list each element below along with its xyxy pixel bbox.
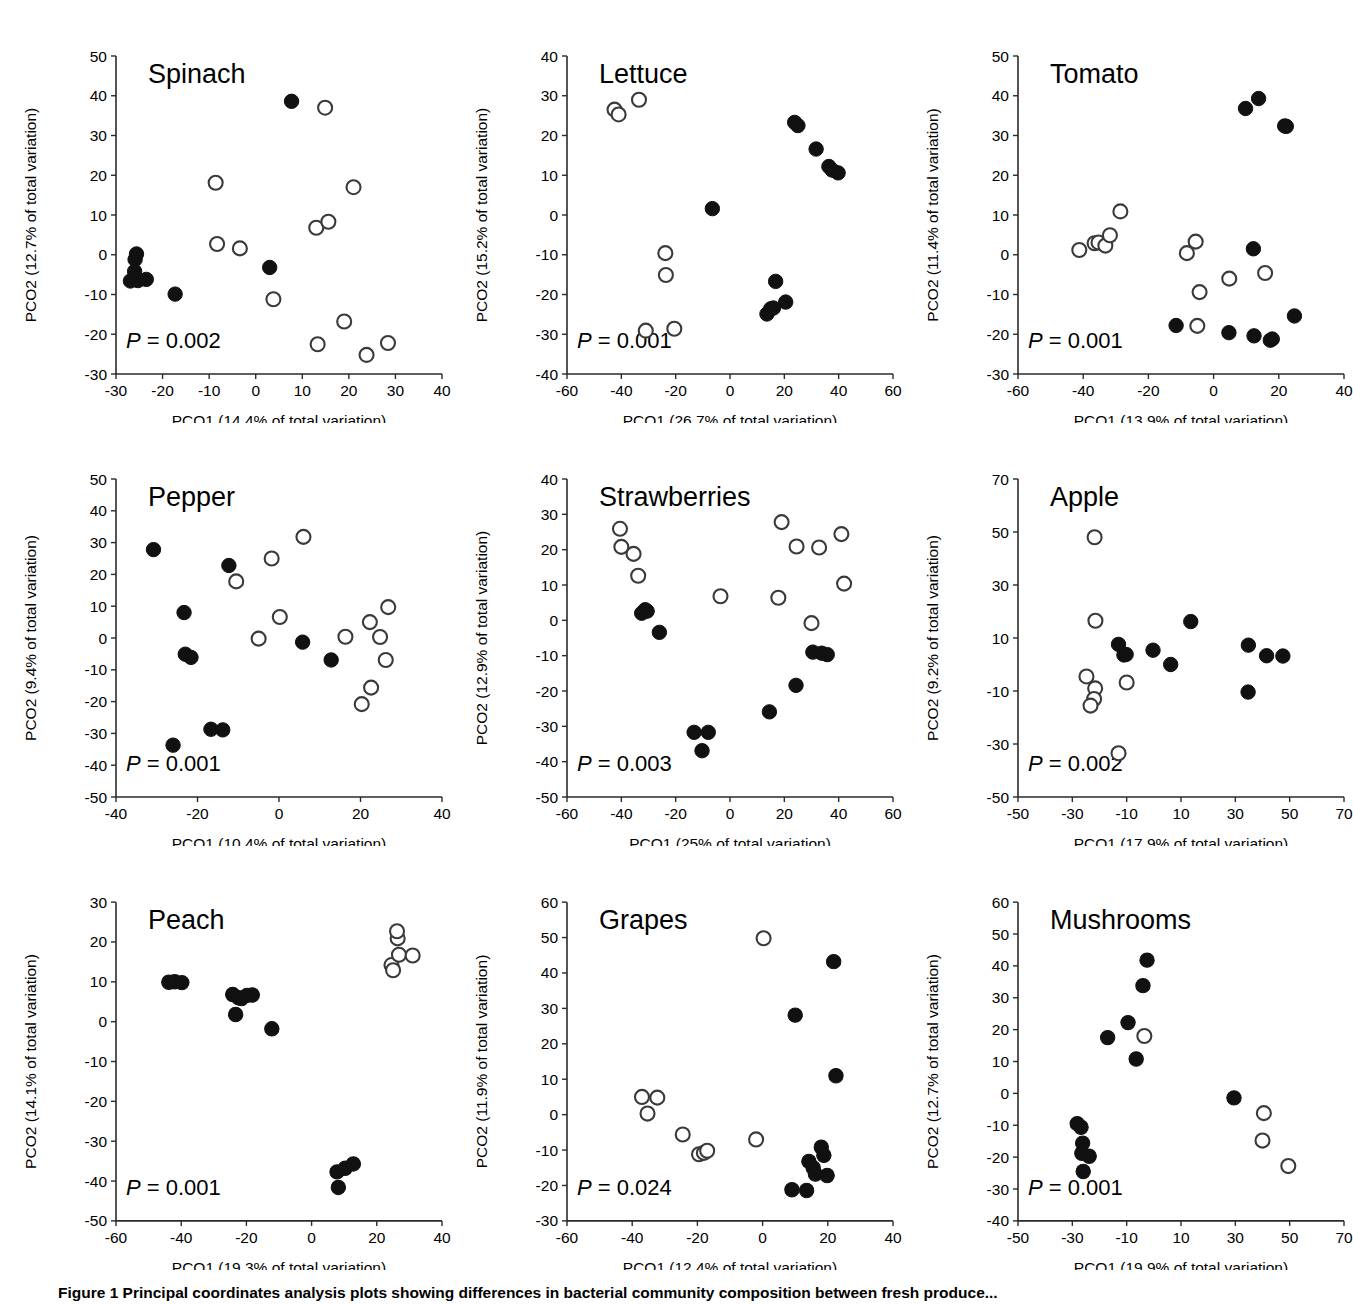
y-tick-label: 10 bbox=[541, 167, 559, 184]
panel-mushrooms: -40-30-20-100102030405060-50-30-10103050… bbox=[902, 846, 1353, 1270]
data-point bbox=[1238, 101, 1252, 115]
x-tick-label: -20 bbox=[664, 805, 687, 822]
data-point bbox=[627, 547, 641, 561]
y-tick-label: 30 bbox=[541, 1000, 559, 1017]
y-tick-label: 50 bbox=[992, 524, 1010, 541]
x-tick-label: 20 bbox=[819, 1229, 837, 1246]
data-point bbox=[1258, 266, 1272, 280]
data-point bbox=[1287, 309, 1301, 323]
x-tick-label: -20 bbox=[151, 382, 174, 399]
x-tick-label: 20 bbox=[776, 805, 794, 822]
series-open-circle bbox=[384, 924, 419, 977]
y-tick-label: 30 bbox=[90, 127, 108, 144]
data-point bbox=[331, 1180, 345, 1194]
panel-title: Apple bbox=[1050, 482, 1119, 512]
y-tick-label: 20 bbox=[541, 541, 559, 558]
y-tick-label: -20 bbox=[85, 693, 108, 710]
x-tick-label: -20 bbox=[235, 1229, 258, 1246]
data-point bbox=[406, 949, 420, 963]
data-point bbox=[129, 247, 143, 261]
data-point bbox=[347, 180, 361, 194]
data-point bbox=[1088, 614, 1102, 628]
panel-peach: -50-40-30-20-100102030-60-40-2002040PCO1… bbox=[0, 846, 451, 1270]
data-point bbox=[209, 176, 223, 190]
y-tick-label: -30 bbox=[536, 326, 559, 343]
data-point bbox=[1084, 699, 1098, 713]
x-tick-label: 20 bbox=[368, 1229, 386, 1246]
data-point bbox=[229, 574, 243, 588]
x-tick-label: 10 bbox=[1172, 1229, 1190, 1246]
svg-text:P = 0.003: P = 0.003 bbox=[577, 751, 672, 776]
data-point bbox=[829, 1068, 843, 1082]
data-point bbox=[635, 1090, 649, 1104]
x-tick-label: 40 bbox=[433, 382, 451, 399]
x-tick-label: 30 bbox=[387, 382, 405, 399]
y-tick-label: -50 bbox=[987, 789, 1010, 806]
data-point bbox=[788, 1008, 802, 1022]
y-tick-label: -30 bbox=[85, 725, 108, 742]
series-filled-circle bbox=[162, 975, 361, 1195]
x-tick-label: -30 bbox=[1061, 805, 1084, 822]
series-filled-circle bbox=[1070, 953, 1241, 1179]
data-point bbox=[363, 615, 377, 629]
data-point bbox=[1088, 530, 1102, 544]
data-point bbox=[1276, 649, 1290, 663]
y-tick-label: -10 bbox=[85, 286, 108, 303]
data-point bbox=[831, 166, 845, 180]
x-axis-title: PCO1 (12.4% of total variation) bbox=[623, 1259, 837, 1270]
y-tick-label: 50 bbox=[90, 48, 108, 65]
data-point bbox=[184, 650, 198, 664]
y-tick-label: 10 bbox=[992, 1053, 1010, 1070]
panel-title: Spinach bbox=[148, 59, 246, 89]
x-tick-label: -30 bbox=[105, 382, 128, 399]
svg-text:P = 0.024: P = 0.024 bbox=[577, 1175, 672, 1200]
data-point bbox=[631, 569, 645, 583]
data-point bbox=[826, 954, 840, 968]
series-filled-circle bbox=[1111, 614, 1290, 699]
y-tick-label: 70 bbox=[992, 471, 1010, 488]
panel-title: Grapes bbox=[599, 905, 687, 935]
y-tick-label: 30 bbox=[992, 127, 1010, 144]
y-axis-title: PCO2 (12.7% of total variation) bbox=[22, 108, 39, 323]
y-tick-label: 0 bbox=[98, 630, 107, 647]
series-open-circle bbox=[635, 931, 771, 1161]
y-tick-label: 10 bbox=[992, 207, 1010, 224]
axis-lines bbox=[567, 902, 893, 1221]
y-tick-label: -20 bbox=[85, 326, 108, 343]
svg-text:P = 0.001: P = 0.001 bbox=[126, 751, 221, 776]
x-tick-label: -20 bbox=[686, 1229, 709, 1246]
y-tick-label: -30 bbox=[536, 718, 559, 735]
y-tick-label: -20 bbox=[85, 1093, 108, 1110]
series-filled-circle bbox=[705, 115, 845, 321]
data-point bbox=[799, 1183, 813, 1197]
data-point bbox=[1074, 1120, 1088, 1134]
p-value-annotation: P = 0.002 bbox=[1028, 751, 1123, 776]
series-filled-circle bbox=[1169, 91, 1302, 347]
y-tick-label: -10 bbox=[85, 1053, 108, 1070]
panel-title: Tomato bbox=[1050, 59, 1139, 89]
x-tick-label: 0 bbox=[251, 382, 260, 399]
data-point bbox=[1257, 1106, 1271, 1120]
data-point bbox=[1076, 1164, 1090, 1178]
x-tick-label: 40 bbox=[884, 1229, 902, 1246]
x-tick-label: -10 bbox=[1115, 805, 1138, 822]
data-point bbox=[318, 101, 332, 115]
data-point bbox=[812, 541, 826, 555]
y-tick-label: -40 bbox=[536, 366, 559, 383]
y-tick-label: -30 bbox=[987, 366, 1010, 383]
y-tick-label: -10 bbox=[536, 1142, 559, 1159]
x-tick-label: -40 bbox=[610, 805, 633, 822]
data-point bbox=[266, 292, 280, 306]
data-point bbox=[640, 604, 654, 618]
y-tick-label: 10 bbox=[992, 630, 1010, 647]
y-tick-label: 20 bbox=[541, 1035, 559, 1052]
x-tick-label: -60 bbox=[556, 805, 579, 822]
svg-text:P = 0.001: P = 0.001 bbox=[126, 1175, 221, 1200]
y-tick-label: -30 bbox=[987, 1181, 1010, 1198]
data-point bbox=[1112, 746, 1126, 760]
y-tick-label: -40 bbox=[85, 757, 108, 774]
y-tick-label: 20 bbox=[90, 167, 108, 184]
data-point bbox=[659, 268, 673, 282]
data-point bbox=[1146, 643, 1160, 657]
